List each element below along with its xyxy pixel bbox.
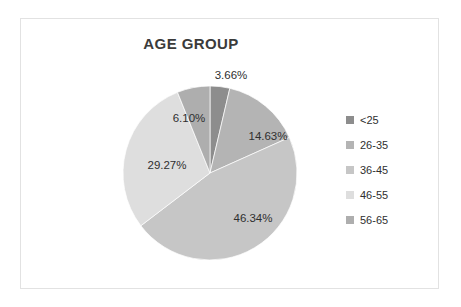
legend-swatch-icon (346, 116, 354, 124)
legend-item-label: 26-35 (360, 139, 388, 151)
legend-swatch-icon (346, 166, 354, 174)
pie-slice-label: 3.66% (215, 69, 248, 81)
chart-legend: <2526-3536-4546-5556-65 (346, 107, 428, 232)
legend-swatch-icon (346, 216, 354, 224)
pie-slice-label: 6.10% (173, 112, 206, 124)
pie-slice-label: 14.63% (248, 130, 287, 142)
legend-item-label: 56-65 (360, 214, 388, 226)
legend-swatch-icon (346, 191, 354, 199)
legend-item[interactable]: 36-45 (346, 157, 428, 182)
legend-item-label: 46-55 (360, 189, 388, 201)
legend-item[interactable]: 46-55 (346, 182, 428, 207)
legend-item-label: 36-45 (360, 164, 388, 176)
legend-swatch-icon (346, 141, 354, 149)
legend-item[interactable]: 26-35 (346, 132, 428, 157)
legend-item[interactable]: <25 (346, 107, 428, 132)
legend-item[interactable]: 56-65 (346, 207, 428, 232)
pie-slice-label: 46.34% (233, 212, 272, 224)
pie-slice-label: 29.27% (147, 159, 186, 171)
legend-item-label: <25 (360, 114, 379, 126)
chart-frame: AGE GROUP 3.66%14.63%46.34%29.27%6.10% <… (20, 18, 439, 289)
